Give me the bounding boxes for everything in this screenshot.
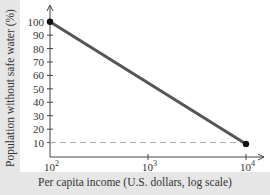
data-point-marker	[47, 19, 53, 25]
x-tick-label: 104	[240, 159, 255, 172]
y-tick-label: 40	[33, 96, 45, 108]
y-tick-label: 20	[33, 123, 45, 135]
data-point-marker	[243, 141, 249, 147]
y-tick-label: 30	[33, 110, 45, 122]
x-tick-label: 103	[142, 159, 157, 172]
y-tick-label: 50	[33, 83, 45, 95]
y-tick-label: 70	[33, 56, 45, 68]
y-tick-label: 90	[33, 29, 45, 41]
y-tick-label: 60	[33, 69, 45, 81]
series-line	[50, 22, 246, 144]
y-tick-label: 100	[28, 16, 45, 28]
y-tick-label: 10	[33, 137, 45, 149]
chart-plot-area: 102030405060708090100102103104	[0, 0, 270, 172]
x-tick-label: 102	[44, 159, 59, 172]
y-tick-label: 80	[33, 43, 45, 55]
x-axis-label: Per capita income (U.S. dollars, log sca…	[0, 176, 270, 188]
